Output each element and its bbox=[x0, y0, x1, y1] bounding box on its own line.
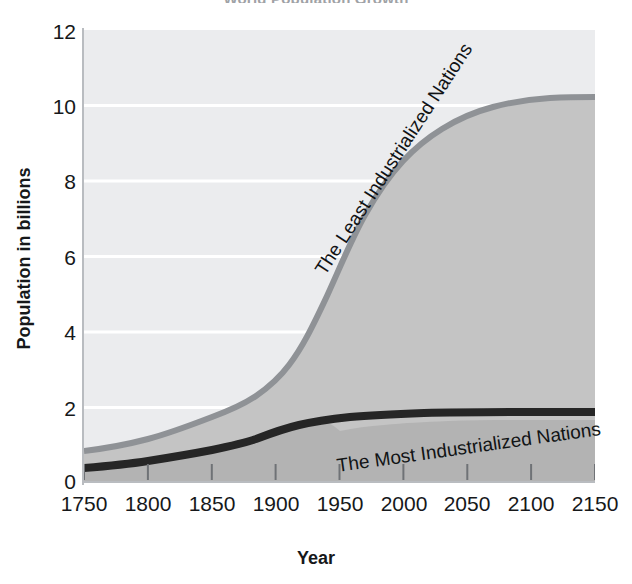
x-axis-tick-labels: 1750 1800 1850 1900 1950 2000 2050 2100 … bbox=[0, 492, 632, 522]
y-tick-0: 0 bbox=[4, 471, 76, 492]
x-tick-1900: 1900 bbox=[253, 492, 300, 516]
x-tick-2150: 2150 bbox=[572, 492, 619, 516]
chart-title: World Population Growth bbox=[0, 0, 632, 3]
x-tick-1750: 1750 bbox=[61, 492, 108, 516]
y-axis-title: Population in billions bbox=[14, 139, 35, 379]
x-tick-2100: 2100 bbox=[508, 492, 555, 516]
x-tick-1800: 1800 bbox=[125, 492, 172, 516]
y-tick-2: 2 bbox=[4, 398, 76, 419]
x-tick-2050: 2050 bbox=[444, 492, 491, 516]
plot-area: The Least Industrialized Nations The Mos… bbox=[84, 30, 595, 483]
x-tick-2000: 2000 bbox=[381, 492, 428, 516]
x-tick-1950: 1950 bbox=[317, 492, 364, 516]
x-axis-title: Year bbox=[0, 548, 632, 569]
y-tick-12: 12 bbox=[4, 21, 76, 42]
y-tick-10: 10 bbox=[4, 96, 76, 117]
chart-figure: World Population Growth 12 10 8 6 4 2 0 bbox=[0, 0, 632, 584]
x-tick-1850: 1850 bbox=[189, 492, 236, 516]
